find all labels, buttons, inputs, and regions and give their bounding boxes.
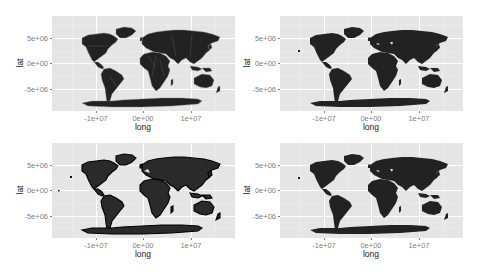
world-map bbox=[280, 16, 463, 111]
x-tick-mark bbox=[96, 238, 97, 240]
x-tick-label: 1e+07 bbox=[399, 241, 439, 250]
y-tick-label: -5e+06 bbox=[236, 212, 276, 221]
y-tick-label: 5e+06 bbox=[8, 161, 48, 170]
x-tick-mark bbox=[419, 111, 420, 113]
x-tick-mark bbox=[191, 111, 192, 113]
x-tick-mark bbox=[324, 238, 325, 240]
map-panel-2: 5e+06 0e+00 -5e+06 -1e+07 0e+00 1e+07 lo… bbox=[240, 0, 479, 136]
x-tick-mark bbox=[419, 238, 420, 240]
y-axis-title: lat bbox=[242, 180, 252, 200]
x-tick-mark bbox=[324, 111, 325, 113]
x-tick-mark bbox=[143, 238, 144, 240]
y-tick-label: 5e+06 bbox=[236, 34, 276, 43]
x-tick-mark bbox=[371, 111, 372, 113]
y-tick-mark bbox=[50, 190, 52, 191]
y-tick-label: 5e+06 bbox=[236, 161, 276, 170]
plot-area bbox=[280, 143, 463, 238]
y-axis-title: lat bbox=[15, 180, 25, 200]
x-tick-mark bbox=[96, 111, 97, 113]
x-axis-title: long bbox=[123, 122, 163, 132]
world-map bbox=[280, 143, 463, 238]
y-tick-mark bbox=[278, 165, 280, 166]
x-axis-title: long bbox=[351, 249, 391, 259]
y-tick-label: 0e+00 bbox=[8, 59, 48, 68]
x-tick-label: -1e+07 bbox=[304, 114, 344, 123]
y-tick-mark bbox=[278, 63, 280, 64]
y-tick-mark bbox=[278, 216, 280, 217]
y-tick-label: 0e+00 bbox=[8, 186, 48, 195]
x-tick-mark bbox=[191, 238, 192, 240]
y-tick-mark bbox=[50, 89, 52, 90]
y-tick-label: 5e+06 bbox=[8, 34, 48, 43]
y-tick-label: -5e+06 bbox=[236, 85, 276, 94]
x-tick-label: -1e+07 bbox=[76, 114, 116, 123]
x-tick-mark bbox=[143, 111, 144, 113]
plot-area bbox=[52, 143, 235, 238]
world-map bbox=[52, 16, 235, 111]
x-tick-label: 1e+07 bbox=[399, 114, 439, 123]
x-axis-title: long bbox=[351, 122, 391, 132]
y-tick-label: -5e+06 bbox=[8, 85, 48, 94]
y-tick-mark bbox=[50, 216, 52, 217]
plot-area bbox=[52, 16, 235, 111]
x-tick-mark bbox=[371, 238, 372, 240]
map-panel-3: 5e+06 0e+00 -5e+06 -1e+07 0e+00 1e+07 lo… bbox=[0, 136, 240, 272]
world-map bbox=[52, 143, 235, 238]
y-axis-title: lat bbox=[242, 53, 252, 73]
y-tick-mark bbox=[278, 190, 280, 191]
y-tick-mark bbox=[278, 38, 280, 39]
y-tick-mark bbox=[50, 38, 52, 39]
y-tick-mark bbox=[278, 89, 280, 90]
y-tick-label: -5e+06 bbox=[8, 212, 48, 221]
x-tick-label: -1e+07 bbox=[304, 241, 344, 250]
x-axis-title: long bbox=[123, 249, 163, 259]
x-tick-label: 1e+07 bbox=[171, 241, 211, 250]
y-tick-mark bbox=[50, 63, 52, 64]
plot-area bbox=[280, 16, 463, 111]
x-tick-label: -1e+07 bbox=[76, 241, 116, 250]
y-axis-title: lat bbox=[15, 53, 25, 73]
x-tick-label: 1e+07 bbox=[171, 114, 211, 123]
map-panel-1: 5e+06 0e+00 -5e+06 -1e+07 0e+00 1e+07 lo… bbox=[0, 0, 240, 136]
map-panel-4: 5e+06 0e+00 -5e+06 -1e+07 0e+00 1e+07 lo… bbox=[240, 136, 479, 272]
y-tick-mark bbox=[50, 165, 52, 166]
